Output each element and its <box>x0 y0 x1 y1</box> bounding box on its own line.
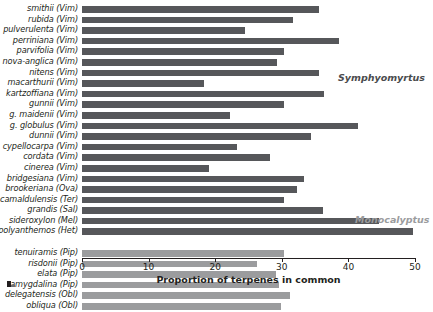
y-axis-tick-label: cordata (Vim) <box>23 151 78 162</box>
x-axis-line <box>82 258 415 259</box>
bar <box>82 186 297 193</box>
y-axis-tick-label: camaldulensis (Ter) <box>0 194 78 205</box>
bar <box>82 70 319 77</box>
bar-row: cinerea (Vim) <box>82 163 415 174</box>
bar <box>82 218 379 225</box>
x-axis-tick-label: 40 <box>343 262 354 272</box>
bar-row: dunnii (Vim) <box>82 131 415 142</box>
bar <box>82 303 281 310</box>
bar <box>82 165 209 172</box>
bar <box>82 38 339 45</box>
bar-row: bridgesiana (Vim) <box>82 174 415 185</box>
bar <box>82 112 230 119</box>
bar-row: camaldulensis (Ter) <box>82 195 415 206</box>
y-axis-tick-label: kartzoffiana (Vim) <box>6 88 78 99</box>
bar-row: delegatensis (Obl) <box>82 290 415 301</box>
bar <box>82 228 413 235</box>
section-label-monocalyptus: Monocalyptus <box>355 214 430 225</box>
x-axis-tick-label: 10 <box>143 262 154 272</box>
bar <box>82 197 284 204</box>
bar-row: gunnii (Vim) <box>82 99 415 110</box>
y-axis-tick-label: delegatensis (Obl) <box>5 289 78 300</box>
bar <box>82 292 290 299</box>
y-axis-tick-label: tenuiramis (Pip) <box>14 247 78 258</box>
x-axis-tick-label: 50 <box>409 262 420 272</box>
bar-row: smithii (Vim) <box>82 4 415 15</box>
bar-row: risdonii (Pip) <box>82 259 415 270</box>
bar <box>82 48 284 55</box>
bar <box>82 17 293 24</box>
y-axis-tick-label: macarthurii (Vim) <box>7 77 78 88</box>
bar <box>82 91 324 98</box>
bar <box>82 176 304 183</box>
y-axis-tick-label: brookeriana (Ova) <box>5 183 78 194</box>
y-axis-tick-label: perriniana (Vim) <box>13 35 78 46</box>
bar <box>82 6 319 13</box>
bar <box>82 27 245 34</box>
y-axis-tick-label: sideroxylon (Mel) <box>9 215 78 226</box>
x-axis-tick-label: 30 <box>276 262 287 272</box>
bar <box>82 101 284 108</box>
y-axis-tick-label: nova-anglica (Vim) <box>2 56 78 67</box>
y-axis-tick-label: obliqua (Obl) <box>26 300 78 311</box>
bar <box>82 144 237 151</box>
bar-row: pulverulenta (Vim) <box>82 25 415 36</box>
bar-row: nova-anglica (Vim) <box>82 57 415 68</box>
y-axis-tick-label: g. globulus (Vim) <box>10 120 78 131</box>
bar <box>82 80 204 87</box>
bar <box>82 261 257 268</box>
bar-row: parvifolia (Vim) <box>82 46 415 57</box>
bar-row: rubida (Vim) <box>82 15 415 26</box>
bar <box>82 123 358 130</box>
y-axis-tick-label: gunnii (Vim) <box>29 98 78 109</box>
bar-row: brookeriana (Ova) <box>82 184 415 195</box>
bar-row: polyanthemos (Het) <box>82 226 415 237</box>
x-axis-tick-label: 0 <box>79 262 85 272</box>
y-axis-tick-label: dunnii (Vim) <box>29 130 78 141</box>
bar-row: g. globulus (Vim) <box>82 121 415 132</box>
bar <box>82 154 270 161</box>
bar-row: perriniana (Vim) <box>82 36 415 47</box>
y-axis-tick-label: g. maidenii (Vim) <box>9 109 78 120</box>
y-axis-tick-label: nitens (Vim) <box>29 67 78 78</box>
y-axis-tick-label: elata (Pip) <box>37 268 78 279</box>
x-axis-title: Proportion of terpenes in common <box>82 274 415 285</box>
bar-row: cypellocarpa (Vim) <box>82 142 415 153</box>
y-axis-tick-label: bridgesiana (Vim) <box>7 173 78 184</box>
section-label-symphyomyrtus: Symphyomyrtus <box>338 72 425 83</box>
group-gap <box>82 237 415 248</box>
y-axis-tick-label: grandis (Sal) <box>27 204 78 215</box>
y-axis-tick-label: smithii (Vim) <box>27 3 78 14</box>
y-axis-tick-label: amygdalina (Pip) <box>10 279 78 290</box>
y-axis-tick-label: cinerea (Vim) <box>24 162 78 173</box>
bar-row: kartzoffiana (Vim) <box>82 89 415 100</box>
x-axis-tick-label: 20 <box>209 262 220 272</box>
bar-row: g. maidenii (Vim) <box>82 110 415 121</box>
y-axis-tick-label: cypellocarpa (Vim) <box>3 141 78 152</box>
bar <box>82 207 323 214</box>
y-axis-tick-label: rubida (Vim) <box>28 14 78 25</box>
bar <box>82 133 311 140</box>
bar <box>82 59 277 66</box>
corner-artifact-mark <box>7 281 11 287</box>
bar-row: cordata (Vim) <box>82 152 415 163</box>
y-axis-tick-label: parvifolia (Vim) <box>17 45 78 56</box>
bar <box>82 250 284 257</box>
y-axis-tick-label: risdonii (Pip) <box>28 258 78 269</box>
y-axis-tick-label: pulverulenta (Vim) <box>3 24 78 35</box>
bar-row: obliqua (Obl) <box>82 301 415 312</box>
y-axis-tick-label: polyanthemos (Het) <box>0 225 78 236</box>
